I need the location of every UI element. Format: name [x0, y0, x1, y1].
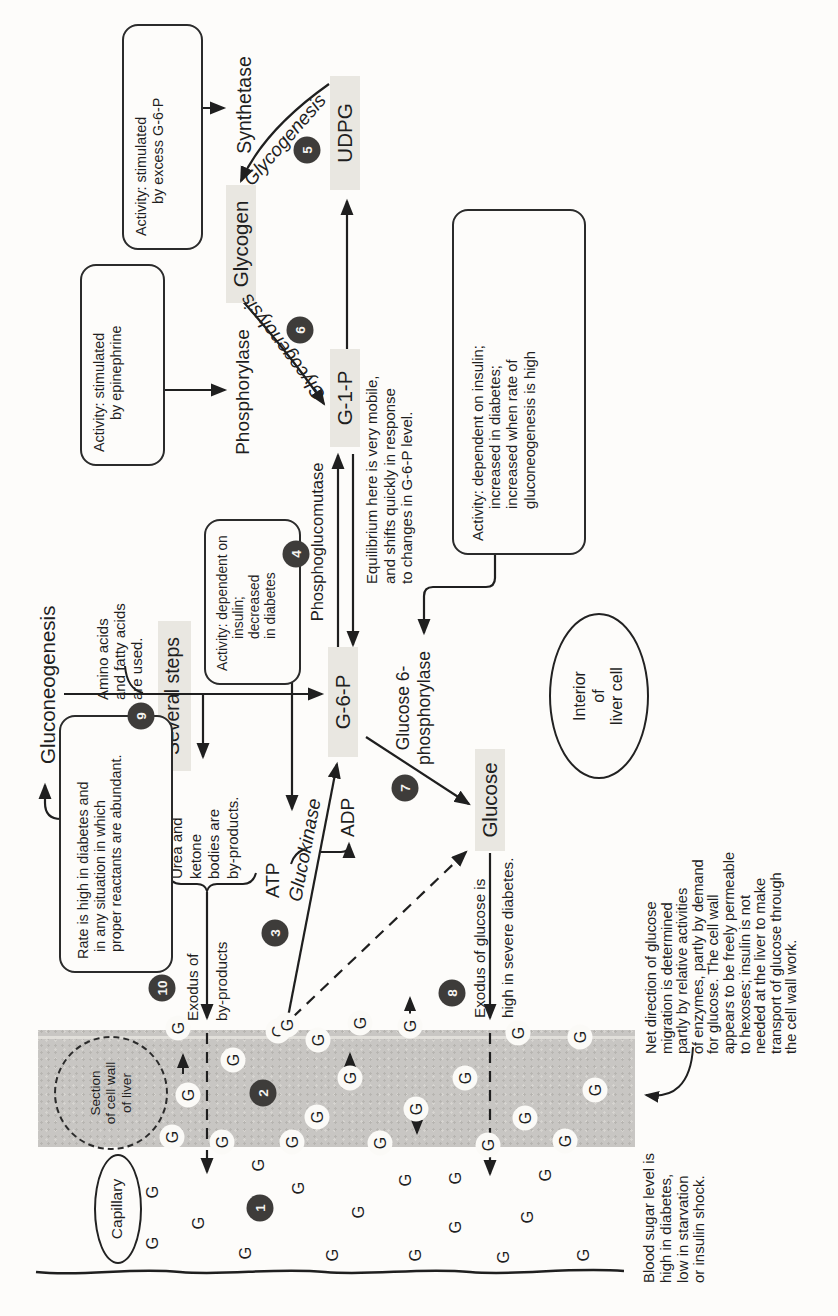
exodus-glucose-label: Exodus of glucose is high in severe diab…	[466, 858, 522, 1018]
glucose-marker: G	[453, 1066, 478, 1091]
glucose-marker: G	[368, 1131, 393, 1156]
step-circle-10: 10	[149, 975, 176, 1002]
glucose-marker: G	[210, 1130, 235, 1155]
step-circle-1: 1	[247, 1195, 274, 1222]
glucose-marker: G	[404, 1097, 429, 1122]
glucose-marker: G	[406, 1249, 425, 1262]
glucose-marker: G	[349, 1206, 368, 1219]
atp-label: ATP	[262, 862, 284, 898]
capillary-wall-wavy-line	[36, 1270, 624, 1273]
glucose-marker: G	[275, 1013, 300, 1038]
section-line: of cell wall	[103, 1062, 119, 1124]
glucose-marker: G	[513, 1106, 538, 1131]
synthetase-label: Synthetase	[233, 52, 256, 158]
glucose-marker: G	[494, 1251, 513, 1264]
section-line: of liver	[119, 1073, 135, 1113]
step-circle-3: 3	[262, 920, 289, 947]
step-circle-8: 8	[439, 980, 466, 1007]
glucose-marker: G	[249, 1159, 268, 1172]
gluconeogenesis-rate-box: Rate is high in diabetes and in any situ…	[59, 715, 173, 973]
gluconeogenesis-title: Gluconeogenesis	[36, 606, 60, 764]
glucose-marker: G	[446, 1221, 465, 1234]
glucose-marker: G	[518, 1211, 537, 1224]
glucose-marker: G	[446, 1172, 465, 1185]
blood-sugar-note: Blood sugar level is high in diabetes, l…	[641, 1153, 708, 1283]
glucose-marker: G	[568, 1025, 593, 1050]
glucose-marker: G	[348, 1011, 373, 1036]
glucose-marker: G	[289, 1182, 308, 1195]
glucose-marker: G	[506, 1021, 531, 1046]
step-circle-4: 4	[283, 541, 310, 568]
capillary-label: Capillary	[108, 1179, 125, 1239]
glucose-marker: G	[338, 1066, 363, 1091]
glucose-marker: G	[398, 1014, 423, 1039]
step-circle-6: 6	[287, 317, 314, 344]
glucose-marker: G	[323, 1249, 342, 1262]
glucose-marker: G	[583, 1078, 608, 1103]
glucose-marker: G	[476, 1133, 501, 1158]
glucose6phosphorylase-label: Glucose 6- phosphorylase	[393, 643, 434, 773]
adp-label: ADP	[337, 798, 359, 837]
interior-ellipse: Interior of liver cell	[549, 613, 649, 779]
interior-line: of	[590, 689, 609, 702]
glucose-marker: G	[189, 1217, 208, 1230]
metabolism-diagram: Capillary Section of cell wall of liver …	[0, 0, 838, 1316]
glucose-marker: G	[166, 1016, 191, 1041]
synthetase-activity-box: Activity: stimulated by excess G-6-P	[122, 24, 203, 250]
glucose-marker: G	[236, 1247, 255, 1260]
section-line: Section	[88, 1070, 104, 1115]
glucose-marker: G	[280, 1130, 305, 1155]
cell-wall-section-circle: Section of cell wall of liver	[54, 1036, 168, 1150]
glucose-marker: G	[574, 1249, 593, 1262]
glucokinase-phosphatase-arrows	[288, 737, 469, 1017]
step-circle-5: 5	[294, 137, 321, 164]
glucose-marker: G	[306, 1028, 331, 1053]
g6p-label: G-6-P	[328, 647, 358, 757]
glucose-marker: G	[553, 1129, 578, 1154]
net-direction-note: Net direction of glucose migration is de…	[644, 852, 800, 1054]
phosphorylase-activity-box: Activity: stimulated by epinephrine	[80, 264, 165, 466]
interior-line: liver cell	[608, 667, 627, 725]
step-circle-9: 9	[128, 703, 155, 730]
glucose-marker: G	[143, 1186, 162, 1199]
glucose-marker: G	[396, 1174, 415, 1187]
glucose-marker: G	[221, 1048, 246, 1073]
phosphorylase-label: Phosphorylase	[232, 324, 254, 460]
exodus-byproducts-label: Exodus of by-products	[178, 942, 236, 1021]
capillary-ellipse: Capillary	[94, 1154, 142, 1264]
interior-line: Interior	[571, 671, 590, 721]
glucose-label: Glucose	[475, 749, 505, 851]
urea-ketone-note: Urea and ketone bodies are by-products.	[168, 796, 242, 879]
equilibrium-note: Equilibrium here is very mobile, and shi…	[363, 376, 416, 584]
glucose-marker: G	[305, 1105, 330, 1130]
glucose-marker: G	[536, 1169, 555, 1182]
step-circle-2: 2	[250, 1080, 277, 1107]
glucose-marker: G	[143, 1237, 162, 1250]
phosphatase-activity-box: Activity: dependent on insulin; increase…	[452, 209, 586, 555]
step-circle-7: 7	[392, 775, 419, 802]
amino-acids-note: Amino acids and fatty acids are used.	[94, 603, 145, 700]
glucose-marker: G	[160, 1125, 185, 1150]
phosphoglucomutase-label: Phosphoglucomutase	[308, 458, 327, 626]
glucose-marker: G	[176, 1083, 201, 1108]
